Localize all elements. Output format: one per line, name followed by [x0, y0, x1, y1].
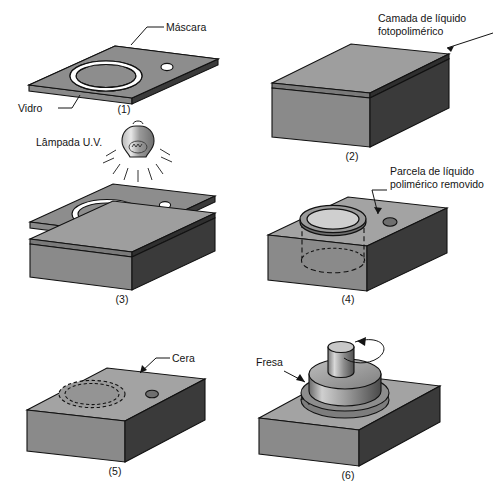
cavidade-boca	[300, 205, 366, 235]
label-lampada-uv: Lâmpada U.V.	[36, 136, 102, 148]
panel-1-number: (1)	[118, 103, 131, 115]
label-mascara: Máscara	[166, 21, 206, 33]
pino-pequeno-5	[146, 390, 159, 398]
label-cera-group: Cera	[140, 352, 195, 373]
panel-5-number: (5)	[109, 465, 122, 477]
label-fresa: Fresa	[256, 356, 283, 368]
label-camada-group: Camada de líquido fotopolimérico	[378, 12, 493, 52]
panel-5: Cera (5)	[27, 352, 205, 477]
label-camada-line2: fotopolimérico	[378, 25, 444, 37]
label-mascara-group: Máscara	[131, 21, 206, 45]
panel-2: Camada de líquido fotopolimérico (2)	[272, 12, 493, 162]
cera-disc	[59, 380, 125, 407]
lampada-uv-icon: Lâmpada U.V.	[36, 121, 172, 182]
panel-4: Parcela de líquido polimérico removido (…	[268, 165, 484, 305]
label-fresa-group: Fresa	[256, 356, 305, 382]
process-figure: Máscara Vidro (1) Camada de líquido foto…	[0, 0, 504, 499]
label-camada-line1: Camada de líquido	[378, 12, 466, 24]
panel-6-number: (6)	[342, 469, 355, 481]
fresa-haste	[328, 342, 354, 378]
label-parcela-line1: Parcela de líquido	[390, 165, 474, 177]
panel-4-number: (4)	[342, 293, 355, 305]
label-cera: Cera	[172, 352, 195, 364]
panel-6: Fresa (6)	[256, 337, 440, 481]
panel-1: Máscara Vidro (1)	[18, 21, 218, 115]
panel-3-number: (3)	[116, 293, 129, 305]
label-parcela-line2: polimérico removido	[390, 178, 484, 190]
panel-2-number: (2)	[346, 150, 359, 162]
pino-pequeno	[383, 218, 397, 226]
bloco-com-cera	[27, 368, 205, 462]
panel-3: Lâmpada U.V. (3)	[30, 121, 215, 305]
label-vidro-group: Vidro	[18, 95, 80, 114]
label-vidro: Vidro	[18, 102, 42, 114]
